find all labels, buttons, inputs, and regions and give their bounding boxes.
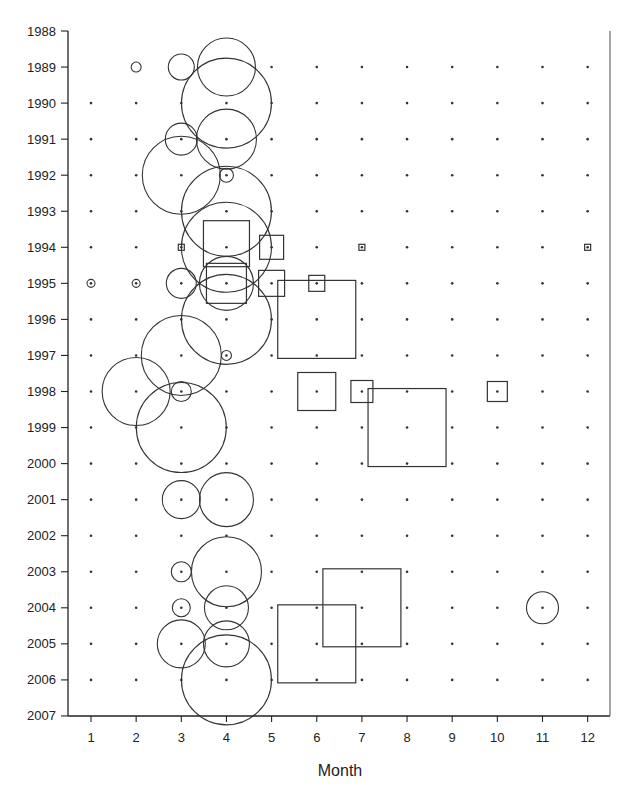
y-tick-label: 1996 xyxy=(27,312,56,327)
grid-dot xyxy=(90,318,93,321)
grid-dot xyxy=(270,138,273,141)
grid-dot xyxy=(270,174,273,177)
grid-dot xyxy=(135,570,138,573)
x-tick-label: 11 xyxy=(536,730,550,745)
grid-dot xyxy=(496,102,499,105)
grid-dot xyxy=(225,282,228,285)
grid-dot xyxy=(135,534,138,537)
grid-dot xyxy=(135,462,138,465)
grid-dot xyxy=(315,498,318,501)
x-tick-label: 10 xyxy=(490,730,504,745)
grid-dot xyxy=(541,138,544,141)
grid-dot xyxy=(180,354,183,357)
grid-dot xyxy=(496,643,499,646)
y-tick-label: 1992 xyxy=(27,168,56,183)
grid-dot xyxy=(270,607,273,610)
grid-dot xyxy=(541,66,544,69)
grid-dot xyxy=(496,462,499,465)
y-tick-label: 1995 xyxy=(27,276,56,291)
grid-dot xyxy=(270,643,273,646)
grid-dot xyxy=(541,643,544,646)
grid-dot xyxy=(451,318,454,321)
y-tick-label: 2003 xyxy=(27,564,56,579)
grid-dot xyxy=(496,318,499,321)
grid-dot xyxy=(270,462,273,465)
grid-dot xyxy=(541,246,544,249)
y-tick-label: 1993 xyxy=(27,204,56,219)
grid-dot xyxy=(180,643,183,646)
grid-dot xyxy=(496,570,499,573)
grid-dot xyxy=(451,607,454,610)
grid-dot xyxy=(361,534,364,537)
grid-dot xyxy=(406,607,409,610)
grid-dot xyxy=(270,498,273,501)
grid-dot xyxy=(90,462,93,465)
grid-dot xyxy=(315,210,318,213)
grid-dot xyxy=(90,138,93,141)
x-tick-label: 4 xyxy=(223,730,230,745)
grid-dot xyxy=(586,390,589,393)
grid-dot xyxy=(406,138,409,141)
grid-dot xyxy=(451,174,454,177)
grid-dot xyxy=(135,390,138,393)
grid-dot xyxy=(586,534,589,537)
grid-dot xyxy=(586,570,589,573)
grid-dot xyxy=(406,174,409,177)
grid-dot xyxy=(496,246,499,249)
grid-dot xyxy=(315,607,318,610)
grid-dot xyxy=(361,679,364,682)
y-tick-label: 2007 xyxy=(27,708,56,723)
grid-dot xyxy=(361,318,364,321)
grid-dot xyxy=(541,570,544,573)
x-tick-label: 7 xyxy=(358,730,365,745)
y-tick-label: 1990 xyxy=(27,96,56,111)
grid-dot xyxy=(90,498,93,501)
y-tick-label: 1997 xyxy=(27,348,56,363)
grid-dot xyxy=(90,354,93,357)
grid-dot xyxy=(135,354,138,357)
grid-dot xyxy=(451,210,454,213)
grid-dot xyxy=(496,607,499,610)
grid-dot xyxy=(496,498,499,501)
grid-dot xyxy=(451,102,454,105)
grid-dot xyxy=(451,498,454,501)
y-tick-label: 2005 xyxy=(27,636,56,651)
grid-dot xyxy=(180,426,183,429)
grid-dot xyxy=(586,102,589,105)
grid-dot xyxy=(270,426,273,429)
grid-dot xyxy=(541,534,544,537)
grid-dot xyxy=(361,102,364,105)
grid-dot xyxy=(225,498,228,501)
grid-dot xyxy=(496,426,499,429)
grid-dot xyxy=(451,426,454,429)
grid-dot xyxy=(315,462,318,465)
grid-dot xyxy=(361,498,364,501)
grid-dot xyxy=(541,426,544,429)
y-tick-label: 1989 xyxy=(27,60,56,75)
grid-dot xyxy=(270,534,273,537)
grid-dot xyxy=(225,138,228,141)
grid-dot xyxy=(135,318,138,321)
x-tick-label: 2 xyxy=(133,730,140,745)
grid-dot xyxy=(90,390,93,393)
grid-dot xyxy=(496,174,499,177)
grid-dot xyxy=(496,679,499,682)
grid-dot xyxy=(586,643,589,646)
grid-dot xyxy=(225,390,228,393)
y-tick-label: 1988 xyxy=(27,24,56,39)
grid-dot xyxy=(406,246,409,249)
grid-dot xyxy=(135,498,138,501)
grid-dot xyxy=(135,138,138,141)
grid-dot xyxy=(496,282,499,285)
x-axis-title: Month xyxy=(318,762,362,779)
grid-dot xyxy=(451,643,454,646)
grid-dot xyxy=(451,390,454,393)
grid-dot xyxy=(361,66,364,69)
x-tick-label: 6 xyxy=(313,730,320,745)
grid-dot xyxy=(135,282,138,285)
grid-dot xyxy=(541,174,544,177)
grid-dot xyxy=(496,66,499,69)
grid-dot xyxy=(541,498,544,501)
grid-dot xyxy=(180,462,183,465)
grid-dot xyxy=(270,570,273,573)
